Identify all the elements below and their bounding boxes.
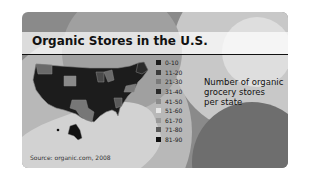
legend-label: 41-50 <box>165 98 182 105</box>
legend: 0-10 11-20 21-30 31-40 41-50 51-60 61-70… <box>156 58 182 144</box>
state-washington <box>36 64 52 74</box>
legend-label: 71-80 <box>165 126 182 133</box>
legend-swatch <box>156 99 161 104</box>
caption-line: per state <box>204 97 288 107</box>
legend-label: 31-40 <box>165 88 182 95</box>
state-alaska <box>68 124 82 140</box>
caption-line: Number of organic <box>204 77 288 87</box>
legend-swatch <box>156 60 161 65</box>
legend-swatch <box>156 70 161 75</box>
caption-line: grocery stores <box>204 87 288 97</box>
legend-swatch <box>156 89 161 94</box>
legend-label: 61-70 <box>165 117 182 124</box>
legend-item: 31-40 <box>156 87 182 97</box>
legend-item: 61-70 <box>156 116 182 126</box>
legend-label: 51-60 <box>165 107 182 114</box>
chart-title: Organic Stores in the U.S. <box>32 34 208 48</box>
legend-item: 11-20 <box>156 68 182 78</box>
us-map <box>30 60 155 152</box>
legend-item: 41-50 <box>156 96 182 106</box>
legend-swatch <box>156 127 161 132</box>
legend-item: 0-10 <box>156 58 182 68</box>
legend-label: 21-30 <box>165 78 182 85</box>
legend-item: 51-60 <box>156 106 182 116</box>
legend-label: 81-90 <box>165 136 182 143</box>
legend-swatch <box>156 137 161 142</box>
legend-swatch <box>156 79 161 84</box>
chart-card: Organic Stores in the U.S. 0-10 11-20 21… <box>22 12 288 168</box>
state-hawaii <box>57 129 60 132</box>
state-wyoming <box>64 76 76 86</box>
source-note: Source: organic.com, 2008 <box>30 154 111 161</box>
legend-item: 21-30 <box>156 77 182 87</box>
legend-caption: Number of organic grocery stores per sta… <box>204 77 288 107</box>
legend-swatch <box>156 118 161 123</box>
legend-label: 0-10 <box>165 59 179 66</box>
legend-label: 11-20 <box>165 69 182 76</box>
legend-item: 71-80 <box>156 125 182 135</box>
legend-item: 81-90 <box>156 135 182 145</box>
legend-swatch <box>156 108 161 113</box>
